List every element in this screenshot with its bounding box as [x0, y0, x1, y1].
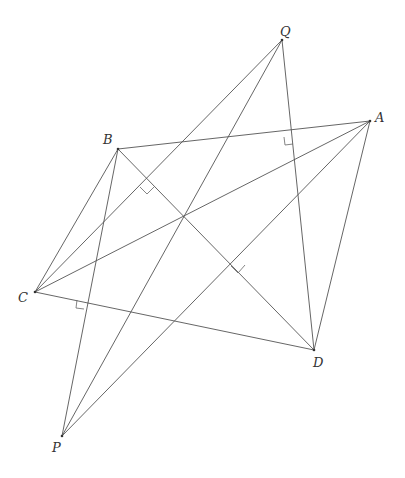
- segment-AP: [62, 121, 370, 436]
- segment-BD: [118, 149, 314, 350]
- label-D: D: [312, 355, 324, 370]
- label-P: P: [51, 440, 61, 455]
- point-B: [117, 148, 120, 151]
- vertex-labels: QABCDP: [18, 24, 384, 455]
- segment-AC: [35, 121, 370, 292]
- point-C: [34, 291, 37, 294]
- segment-BP: [62, 149, 118, 436]
- right-angle-mark: [284, 137, 293, 145]
- right-angle-mark: [140, 187, 154, 194]
- segment-QP: [62, 40, 282, 436]
- right-angle-marks: [76, 137, 293, 309]
- point-A: [369, 120, 372, 123]
- segment-CQ: [35, 40, 282, 292]
- point-D: [313, 349, 316, 352]
- label-C: C: [18, 290, 28, 305]
- geometry-diagram: QABCDP: [0, 0, 405, 478]
- label-B: B: [102, 132, 113, 147]
- line-segments: [35, 40, 370, 436]
- point-Q: [281, 39, 284, 42]
- label-A: A: [374, 110, 384, 125]
- label-Q: Q: [280, 24, 291, 39]
- vertex-points: [34, 39, 372, 438]
- point-P: [61, 435, 64, 438]
- segment-QD: [282, 40, 314, 350]
- segment-AD: [314, 121, 370, 350]
- segment-AB: [118, 121, 370, 149]
